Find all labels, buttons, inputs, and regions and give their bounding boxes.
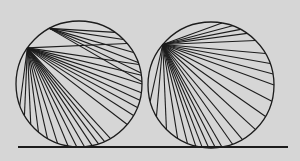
diagram-canvas: [0, 0, 300, 161]
chord-line: [163, 23, 222, 45]
chord-line: [163, 29, 241, 44]
right-circle: [148, 22, 274, 148]
chord-line: [156, 45, 162, 117]
rolling-circles-diagram: [0, 0, 300, 161]
left-circle: [16, 21, 142, 147]
chord-line: [49, 28, 142, 81]
chord-line: [27, 48, 104, 142]
chord-line: [163, 45, 270, 64]
chord-line: [27, 48, 76, 147]
chord-line: [163, 45, 233, 145]
